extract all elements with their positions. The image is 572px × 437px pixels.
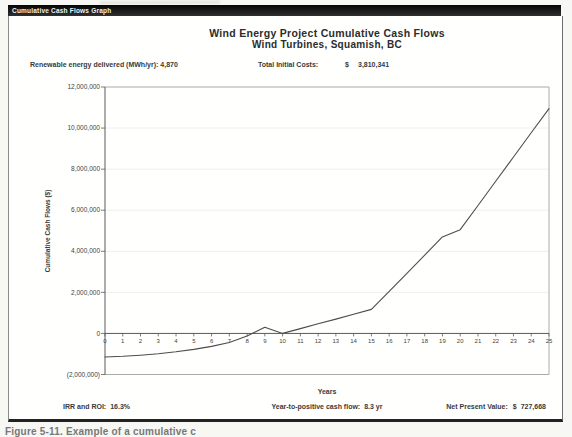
worksheet-tab-bar: Cumulative Cash Flows Graph — [8, 5, 561, 16]
figure-caption: Figure 5-11. Example of a cumulative c — [5, 426, 196, 437]
chart-title-block: Wind Energy Project Cumulative Cash Flow… — [105, 27, 549, 51]
total-initial-costs-label: Total Initial Costs: — [258, 61, 318, 68]
net-present-value-stat: Net Present Value:$727,668 — [398, 403, 546, 410]
chart-subtitle: Wind Turbines, Squamish, BC — [105, 39, 549, 51]
npv-currency: $ — [513, 403, 517, 410]
renewable-energy-label: Renewable energy delivered (MWh/yr): — [30, 61, 158, 68]
total-initial-costs-currency: $ — [345, 61, 349, 68]
scan-artifact — [100, 1, 220, 5]
x-axis-title: Years — [105, 388, 549, 395]
y-axis-title: Cumulative Cash Flows ($) — [44, 190, 51, 273]
renewable-energy-value: 4,870 — [160, 61, 178, 68]
npv-value: 727,668 — [521, 403, 546, 410]
cumulative-cash-flows-graph-tab[interactable]: Cumulative Cash Flows Graph — [8, 7, 111, 14]
npv-label: Net Present Value: — [446, 403, 507, 410]
payback-value: 8.3 yr — [364, 403, 382, 410]
total-initial-costs-value: 3,810,341 — [358, 61, 389, 68]
irr-roi-label: IRR and ROI: — [63, 403, 106, 410]
chart-panel — [8, 16, 563, 422]
chart-title: Wind Energy Project Cumulative Cash Flow… — [105, 27, 549, 39]
payback-label: Year-to-positive cash flow: — [272, 403, 361, 410]
renewable-energy-delivered: Renewable energy delivered (MWh/yr): 4,8… — [30, 61, 178, 68]
